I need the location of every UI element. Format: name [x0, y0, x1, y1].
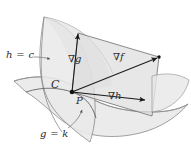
- plane-corner-dot: [157, 55, 160, 58]
- label-grad-g: ∇g: [68, 54, 81, 64]
- diagram-canvas: [0, 0, 191, 150]
- label-point-p: P: [76, 96, 83, 106]
- point-P-marker: [70, 90, 75, 95]
- gradient-surfaces-diagram: h = c g = k C P ∇g ∇f ∇h: [0, 0, 191, 150]
- label-grad-f: ∇f: [113, 52, 124, 62]
- label-surface-g: g = k: [40, 129, 69, 139]
- label-curve-c: C: [51, 79, 59, 90]
- label-surface-h: h = c: [6, 50, 34, 60]
- label-grad-h: ∇h: [108, 91, 121, 101]
